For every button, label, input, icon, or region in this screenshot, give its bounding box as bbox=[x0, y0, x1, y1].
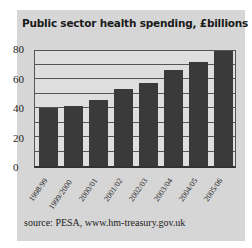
bar-1999-2000 bbox=[64, 106, 83, 166]
bar-2000-01 bbox=[89, 100, 108, 166]
plot-area bbox=[34, 50, 236, 168]
y-tick-label: 0 bbox=[13, 161, 31, 173]
y-tick-label: 60 bbox=[13, 73, 31, 85]
bar-2001-02 bbox=[114, 89, 133, 166]
bar-2002-03 bbox=[139, 83, 158, 166]
y-tick-label: 80 bbox=[13, 43, 31, 55]
bar-2003-04 bbox=[164, 70, 183, 166]
chart-title: Public sector health spending, £billions bbox=[22, 17, 248, 29]
y-tick-label: 40 bbox=[13, 102, 31, 114]
y-tick-label: 20 bbox=[13, 132, 31, 144]
bar-1998-99 bbox=[39, 108, 58, 166]
source-note: source: PESA, www.hm-treasury.gov.uk bbox=[24, 217, 185, 228]
bar-2005-06 bbox=[214, 51, 233, 166]
bar-2004-05 bbox=[189, 62, 208, 166]
